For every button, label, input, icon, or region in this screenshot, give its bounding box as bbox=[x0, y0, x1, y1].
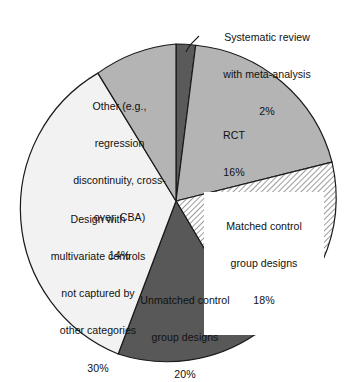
slice-label-other-line2: regression bbox=[57, 137, 182, 149]
slice-label-other-line1: Other (e.g., bbox=[57, 100, 182, 112]
slice-label-other-line4: over, CBA) bbox=[57, 211, 182, 223]
slice-label-rct-percent: 16% bbox=[186, 166, 282, 178]
slice-label-design-line3: not captured by bbox=[30, 287, 166, 299]
slice-label-other-percent: 14% bbox=[57, 249, 182, 261]
slice-label-systematic-line2: with meta-analysis bbox=[183, 68, 351, 80]
slice-label-other: Other (e.g., regression discontinuity, c… bbox=[57, 75, 182, 286]
slice-label-systematic-line1: Systematic review bbox=[183, 31, 351, 43]
slice-label-design-percent: 30% bbox=[30, 362, 166, 374]
slice-label-rct: RCT 16% bbox=[186, 104, 282, 203]
slice-label-rct-line1: RCT bbox=[186, 129, 282, 141]
slice-label-matched-line2: group designs bbox=[208, 257, 320, 269]
slice-label-other-line3: discontinuity, cross- bbox=[57, 174, 182, 186]
slice-label-matched-line1: Matched control bbox=[208, 220, 320, 232]
slice-label-design-line4: other categories bbox=[30, 324, 166, 336]
